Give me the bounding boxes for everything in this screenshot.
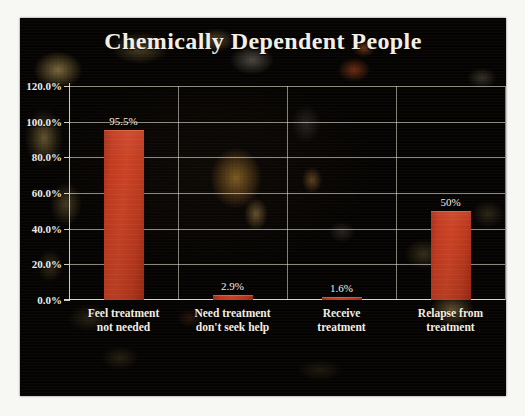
- bar[interactable]: [322, 297, 362, 300]
- slide-photo-frame: Chemically Dependent People 0.0%20.0%40.…: [0, 0, 525, 416]
- category-label-line: treatment: [317, 320, 365, 334]
- y-axis-tick: [64, 300, 69, 301]
- y-axis-tick: [64, 193, 69, 194]
- bar-value-label: 50%: [440, 196, 460, 208]
- y-axis-line: [69, 83, 70, 301]
- plot-area: 0.0%20.0%40.0%60.0%80.0%100.0%120.0% 95.…: [69, 86, 505, 300]
- gridline-vertical: [505, 86, 506, 300]
- x-axis-category-label: Need treatmentdon't seek help: [194, 306, 270, 334]
- category-label-line: don't seek help: [194, 320, 270, 334]
- y-axis-tick-label: 60.0%: [32, 187, 62, 199]
- category-label-line: not needed: [88, 320, 160, 334]
- bar-value-label: 1.6%: [330, 282, 353, 294]
- y-axis-tick-label: 120.0%: [26, 80, 62, 92]
- chart-title: Chemically Dependent People: [20, 28, 506, 55]
- category-label-line: Receive: [317, 306, 365, 320]
- bar[interactable]: [104, 130, 144, 300]
- y-axis-tick: [64, 86, 69, 87]
- x-axis-category-label: Receivetreatment: [317, 306, 365, 334]
- category-label-line: treatment: [418, 320, 483, 334]
- y-axis-tick-label: 20.0%: [32, 258, 62, 270]
- bar[interactable]: [213, 295, 253, 300]
- category-label-line: Need treatment: [194, 306, 270, 320]
- category-label-line: Feel treatment: [88, 306, 160, 320]
- category-label-line: Relapse from: [418, 306, 483, 320]
- y-axis-tick-label: 0.0%: [37, 294, 62, 306]
- y-axis-tick-label: 80.0%: [32, 151, 62, 163]
- presentation-slide: Chemically Dependent People 0.0%20.0%40.…: [20, 18, 506, 396]
- y-axis-tick-label: 100.0%: [26, 116, 62, 128]
- bar-value-label: 95.5%: [109, 115, 137, 127]
- x-axis-category-label: Relapse fromtreatment: [418, 306, 483, 334]
- bar-value-label: 2.9%: [221, 280, 244, 292]
- y-axis-tick: [64, 122, 69, 123]
- x-axis-category-label: Feel treatmentnot needed: [88, 306, 160, 334]
- gridline-vertical: [287, 86, 288, 300]
- bar[interactable]: [431, 211, 471, 300]
- y-axis-tick: [64, 157, 69, 158]
- y-axis-tick: [64, 264, 69, 265]
- y-axis-tick-label: 40.0%: [32, 223, 62, 235]
- gridline-vertical: [178, 86, 179, 300]
- gridline-vertical: [396, 86, 397, 300]
- y-axis-tick: [64, 229, 69, 230]
